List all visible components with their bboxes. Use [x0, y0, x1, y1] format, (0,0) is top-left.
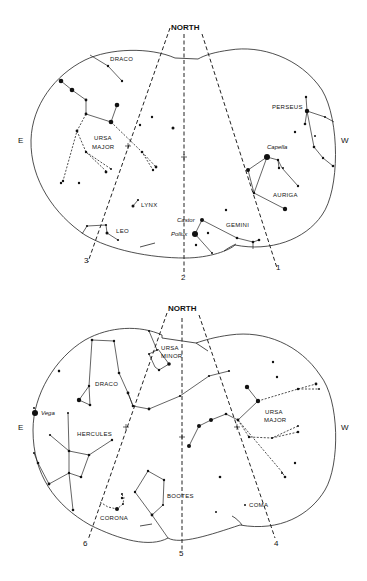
meridian-line-6 [88, 313, 167, 540]
star [139, 124, 141, 126]
label-ursa: URSA [265, 409, 283, 415]
constellation-ursa-major: URSA MAJOR [59, 79, 158, 185]
constellation-coma: COMA [244, 502, 268, 508]
label-lynx: LYNX [141, 202, 157, 208]
constellation-perseus: PERSEUS [272, 96, 334, 168]
meridian-number-3: 3 [84, 256, 89, 265]
label-castor: Castor [177, 217, 196, 223]
star [219, 476, 222, 479]
meridian-number-4: 4 [274, 539, 279, 548]
boundary-tick [224, 244, 236, 251]
meridian-number-5: 5 [179, 549, 184, 558]
cross-marker [234, 424, 240, 430]
constellation-bootes: BOOTES [134, 470, 194, 538]
star [172, 127, 175, 130]
star [294, 462, 296, 464]
label-major: MAJOR [92, 144, 115, 150]
label-corona: CORONA [100, 515, 128, 521]
label-perseus: PERSEUS [272, 104, 303, 110]
star [294, 131, 296, 133]
label-coma: COMA [249, 502, 268, 508]
boundary-tick [140, 243, 155, 247]
star [276, 376, 278, 378]
label-auriga: AURIGA [273, 192, 298, 198]
east-label: E [18, 423, 23, 432]
cross-marker [125, 143, 131, 149]
label-vega: Vega [41, 410, 55, 416]
star [272, 361, 274, 363]
meridian-number-6: 6 [83, 539, 88, 548]
north-label: NORTH [171, 23, 200, 32]
label-draco: DRACO [110, 56, 133, 62]
star [58, 370, 60, 372]
label-minor: MINOR [161, 353, 183, 359]
label-hercules: HERCULES [77, 431, 112, 437]
constellation-corona: CORONA [100, 493, 128, 521]
star-charts: NORTH E W 3 2 1 DRACO [0, 0, 367, 581]
boundary-tick [232, 516, 242, 525]
meridian-line-1 [202, 34, 277, 268]
label-bootes: BOOTES [167, 493, 194, 499]
label-draco: DRACO [95, 381, 118, 387]
constellation-gemini: Castor Pollux GEMINI [171, 217, 260, 254]
label-capella: Capella [267, 144, 288, 150]
west-label: W [341, 423, 349, 432]
bottom-star-chart: NORTH E W 6 5 4 URSA MINOR [18, 304, 349, 558]
constellation-auriga: Capella AURIGA [246, 144, 299, 211]
zenith-marker [181, 154, 187, 160]
label-gemini: GEMINI [226, 222, 249, 228]
constellation-leo: LEO [82, 224, 129, 241]
constellation-ursa-major: URSA MAJOR [187, 383, 320, 479]
top-star-chart: NORTH E W 3 2 1 DRACO [18, 23, 349, 282]
boundary-tick [140, 524, 152, 526]
constellation-ursa-minor: URSA MINOR [148, 330, 183, 371]
constellation-draco: DRACO [90, 55, 133, 82]
east-label: E [18, 136, 23, 145]
star [225, 209, 227, 211]
meridian-number-1: 1 [276, 263, 281, 272]
constellation-hercules: HERCULES [33, 412, 113, 511]
label-major: MAJOR [264, 417, 287, 423]
zenith-marker [179, 434, 185, 440]
top-chart-outline [31, 49, 336, 258]
west-label: W [341, 136, 349, 145]
label-pollux: Pollux [171, 231, 188, 237]
label-leo: LEO [116, 228, 129, 234]
label-ursa: URSA [94, 135, 112, 141]
star [151, 116, 153, 118]
meridian-number-2: 2 [181, 273, 186, 282]
constellation-draco: DRACO [58, 339, 230, 411]
boundary-tick [196, 343, 208, 351]
label-ursa: URSA [161, 345, 179, 351]
star [215, 511, 217, 513]
north-label: NORTH [168, 304, 197, 313]
constellation-lynx: LYNX [132, 199, 158, 208]
